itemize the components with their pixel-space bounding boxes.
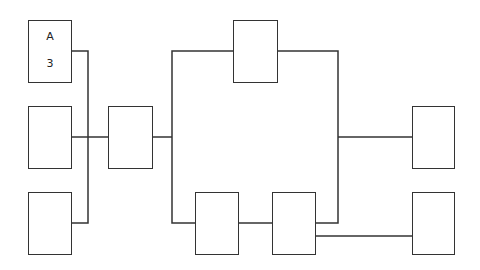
node-bottom-1[interactable] [195, 192, 239, 255]
node-right-bottom[interactable] [412, 192, 455, 255]
node-bottom-2[interactable] [272, 192, 316, 255]
node-label-bottom: 3 [29, 57, 71, 70]
node-right-top[interactable] [412, 106, 455, 169]
node-top[interactable] [233, 20, 278, 83]
node-a3[interactable]: A 3 [28, 20, 72, 83]
node-left-bottom[interactable] [28, 192, 72, 255]
node-center[interactable] [108, 106, 153, 169]
node-label-top: A [29, 30, 71, 43]
node-left-middle[interactable] [28, 106, 72, 169]
